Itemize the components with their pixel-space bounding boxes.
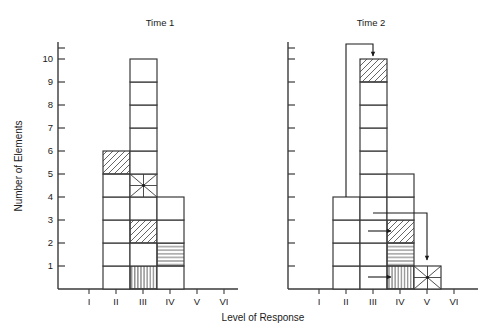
- cell-II-4: [103, 197, 130, 220]
- cell-III-8-t2: [360, 105, 387, 128]
- y-axis-ticks-1: [58, 48, 65, 266]
- cell-III-4: [130, 197, 157, 220]
- panel-title-time-1: Time 1: [146, 17, 175, 28]
- x-axis-tick-labels-2: I II III IV V VI: [318, 296, 459, 307]
- x-tick-label-VI-2: VI: [450, 296, 459, 307]
- cell-III-2-t2: [360, 243, 387, 266]
- cell-IV-4: [157, 197, 184, 220]
- y-tick-label-7: 7: [48, 122, 53, 133]
- cell-IV-1: [157, 266, 184, 289]
- cell-III-10-diagonal-t2: [360, 59, 387, 82]
- y-tick-label-4: 4: [48, 191, 53, 202]
- panel-time-2: Time 2 I II III: [288, 17, 478, 307]
- y-tick-label-5: 5: [48, 168, 53, 179]
- cell-II-1: [103, 266, 130, 289]
- cell-IV-3-diagonal-t2: [387, 220, 414, 243]
- y-axis-title-1: Number of Elements: [13, 120, 24, 211]
- cell-II-6-diagonal: [103, 151, 130, 174]
- y-tick-label-1: 1: [48, 260, 53, 271]
- y-tick-label-3: 3: [48, 214, 53, 225]
- cell-III-9: [130, 82, 157, 105]
- y-axis-ticks-2: [288, 48, 295, 266]
- cell-IV-3: [157, 220, 184, 243]
- x-tick-label-VI-1: VI: [220, 296, 229, 307]
- bar-column-IV-1: [157, 197, 184, 289]
- cell-III-1-vertical: [130, 266, 157, 289]
- star-center-dot-V-1-t2: [426, 276, 429, 279]
- cell-III-5-t2: [360, 174, 387, 197]
- bar-column-IV-2: [387, 174, 414, 289]
- x-tick-label-II-2: II: [343, 296, 348, 307]
- panel-title-time-2: Time 2: [357, 17, 386, 28]
- cell-III-8: [130, 105, 157, 128]
- x-axis-ticks-2: [319, 289, 454, 294]
- cell-III-10: [130, 59, 157, 82]
- x-axis-tick-labels-1: I II III IV V VI: [88, 296, 229, 307]
- bar-column-III-1: [130, 59, 157, 289]
- y-tick-label-10: 10: [42, 53, 53, 64]
- x-tick-label-I-2: I: [318, 296, 321, 307]
- cell-III-3-diagonal: [130, 220, 157, 243]
- y-tick-label-2: 2: [48, 237, 53, 248]
- x-axis-title: Level of Response: [222, 312, 305, 323]
- cell-IV-4-t2: [387, 197, 414, 220]
- x-tick-label-II-1: II: [113, 296, 118, 307]
- x-tick-label-V-2: V: [424, 296, 431, 307]
- x-tick-label-I-1: I: [88, 296, 91, 307]
- cell-III-2: [130, 243, 157, 266]
- cell-II-3-t2: [333, 220, 360, 243]
- cell-IV-1-vertical-t2: [387, 266, 414, 289]
- cell-II-1-t2: [333, 266, 360, 289]
- chart-figure: Time 1 10 9 8 7 6 5 4 3 2: [0, 0, 501, 331]
- cell-IV-5-t2: [387, 174, 414, 197]
- cell-II-3: [103, 220, 130, 243]
- y-tick-label-8: 8: [48, 99, 53, 110]
- x-tick-label-III-1: III: [139, 296, 147, 307]
- bar-column-V-2: [414, 266, 441, 289]
- x-tick-label-IV-2: IV: [396, 296, 406, 307]
- y-tick-label-6: 6: [48, 145, 53, 156]
- y-tick-label-9: 9: [48, 76, 53, 87]
- x-tick-label-IV-1: IV: [166, 296, 176, 307]
- y-axis-tick-labels-1: 10 9 8 7 6 5 4 3 2 1: [42, 53, 53, 271]
- cell-II-2: [103, 243, 130, 266]
- cell-III-6: [130, 151, 157, 174]
- cell-III-7-t2: [360, 128, 387, 151]
- bar-column-II-1: [103, 151, 130, 289]
- cell-II-4-t2: [333, 197, 360, 220]
- panel-time-1: Time 1 10 9 8 7 6 5 4 3 2: [13, 17, 238, 307]
- bar-column-III-2: [360, 59, 387, 289]
- cell-II-2-t2: [333, 243, 360, 266]
- x-axis-ticks-1: [89, 289, 224, 294]
- x-tick-label-V-1: V: [194, 296, 201, 307]
- cell-III-4-t2: [360, 197, 387, 220]
- star-center-dot-III-5: [142, 184, 145, 187]
- x-tick-label-III-2: III: [369, 296, 377, 307]
- cell-IV-2-horizontal: [157, 243, 184, 266]
- bar-column-II-2: [333, 197, 360, 289]
- cell-III-7: [130, 128, 157, 151]
- cell-IV-2-horizontal-t2: [387, 243, 414, 266]
- cell-III-9-t2: [360, 82, 387, 105]
- cell-II-5: [103, 174, 130, 197]
- cell-III-6-t2: [360, 151, 387, 174]
